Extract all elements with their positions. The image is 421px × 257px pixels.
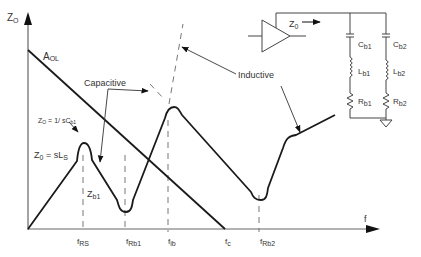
x-axis-arrow-icon: [366, 225, 380, 233]
cb1-label: Cb1: [358, 40, 372, 50]
zb1-label: Zb1: [87, 189, 100, 200]
zo-1-over-scb1-label: ZO = 1/ sCb1: [38, 117, 76, 125]
x-axis-label: f: [364, 214, 367, 224]
aol-line: [28, 50, 225, 229]
cb2-label: Cb2: [393, 40, 407, 50]
tick-frb2: fRb2: [260, 237, 275, 247]
rb1-label: Rb1: [358, 97, 372, 107]
circuit-z0-label: Z0: [289, 19, 299, 30]
aol-label: AOL: [43, 51, 59, 62]
impedance-diagram: ZO f AOL Capacitive Inductive ZO = 1/ sC…: [0, 0, 421, 257]
zo-sls-label: Z0 = sLS: [34, 150, 68, 161]
impedance-curve: [28, 107, 335, 229]
inductive-label: Inductive: [238, 70, 274, 80]
rb2-label: Rb2: [393, 97, 407, 107]
x-axis: [28, 225, 380, 233]
frequency-markers: [83, 24, 259, 232]
y-axis-label: ZO: [7, 12, 19, 24]
capacitive-label: Capacitive: [84, 78, 126, 88]
capacitive-asymptote: [150, 84, 164, 99]
tick-frb1: fRb1: [126, 237, 141, 247]
y-axis: [24, 12, 32, 230]
annotation-arrows: [69, 47, 300, 162]
lb1-label: Lb1: [358, 67, 370, 77]
tick-frs: fRS: [77, 237, 89, 247]
tick-fib: fib: [168, 237, 176, 247]
lb2-label: Lb2: [393, 67, 405, 77]
tick-fc: fc: [225, 237, 231, 247]
ground-icon: [380, 120, 392, 127]
y-axis-arrow-icon: [24, 12, 32, 25]
inductive-asymptote: [169, 24, 183, 104]
